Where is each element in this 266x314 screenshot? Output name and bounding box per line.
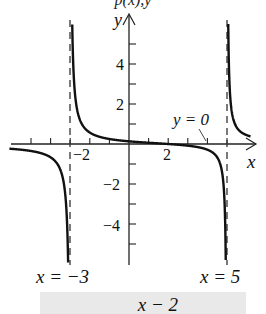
- y-axis-label: y: [112, 10, 122, 30]
- x-axis: [11, 138, 256, 150]
- y-tick-label-4: 4: [116, 56, 124, 73]
- curve-branch-right: [228, 24, 250, 136]
- formula-bar: x − 2: [40, 292, 246, 314]
- x-tick-label-neg2: −2: [73, 146, 90, 163]
- x-axis-label: x: [246, 151, 256, 172]
- horizontal-asymptote-label: y = 0: [171, 110, 210, 129]
- y-tick-label-neg4: −4: [103, 217, 120, 234]
- asymptote-label-left: x = −3: [35, 266, 89, 287]
- x-tick-label-2: 2: [163, 146, 171, 163]
- y-tick-label-neg2: −2: [103, 176, 120, 193]
- formula-numerator: x − 2: [40, 294, 246, 314]
- y0-pointer-line: [199, 129, 206, 141]
- curve-branch-middle: [72, 25, 226, 260]
- asymptote-label-right: x = 5: [199, 266, 240, 287]
- curve-branch-left: [9, 149, 68, 263]
- y-axis: [123, 14, 135, 265]
- y-tick-label-2: 2: [116, 96, 124, 113]
- rational-function-graph: y x 4 2 −2 −4 −2 2 x = −3 x = 5 y = 0: [0, 0, 266, 314]
